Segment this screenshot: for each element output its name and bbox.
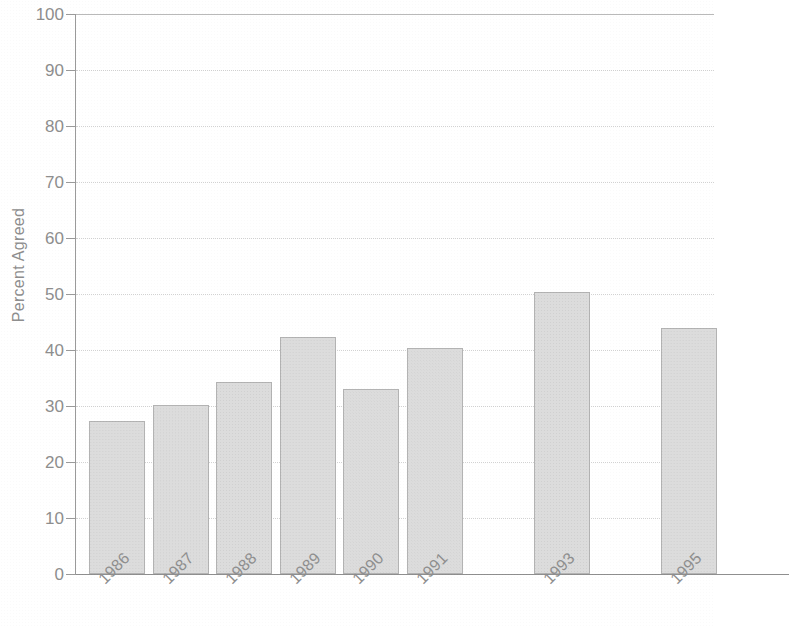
bar	[216, 382, 272, 574]
y-axis-tick-label: 70	[20, 174, 64, 191]
y-axis-tick	[66, 182, 76, 183]
y-axis-tick-label: 40	[20, 342, 64, 359]
plot-area	[75, 14, 714, 574]
gridline	[76, 294, 714, 295]
gridline	[76, 350, 714, 351]
bar	[153, 405, 209, 574]
y-axis-tick	[66, 518, 76, 519]
y-axis-tick-label: 90	[20, 62, 64, 79]
y-axis-tick-labels: 0102030405060708090100	[12, 14, 64, 575]
x-axis-tick-labels: 19861987198819891990199119931995	[75, 575, 714, 628]
y-axis-tick	[66, 350, 76, 351]
y-axis-tick-label: 100	[20, 6, 64, 23]
y-axis-tick	[66, 238, 76, 239]
gridline	[76, 70, 714, 71]
bar	[661, 328, 717, 574]
y-axis-tick-label: 50	[20, 286, 64, 303]
bar	[343, 389, 399, 574]
plot-top-border	[75, 14, 714, 15]
y-axis-tick-label: 10	[20, 510, 64, 527]
bar	[280, 337, 336, 574]
gridline	[76, 126, 714, 127]
y-axis-tick-label: 60	[20, 230, 64, 247]
bar	[407, 348, 463, 574]
y-axis-tick-label: 30	[20, 398, 64, 415]
y-axis-tick	[66, 70, 76, 71]
y-axis-tick	[66, 294, 76, 295]
y-axis-tick	[66, 14, 76, 15]
y-axis-tick-label: 20	[20, 454, 64, 471]
y-axis-tick-label: 80	[20, 118, 64, 135]
y-axis-tick	[66, 462, 76, 463]
bar	[534, 292, 590, 574]
gridline	[76, 182, 714, 183]
gridline	[76, 238, 714, 239]
y-axis-tick-label: 0	[20, 566, 64, 583]
y-axis-tick	[66, 406, 76, 407]
y-axis-tick	[66, 126, 76, 127]
